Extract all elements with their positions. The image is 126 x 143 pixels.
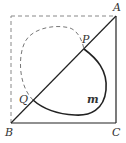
- label-p: P: [81, 33, 90, 46]
- dashed-curve: [20, 27, 84, 100]
- geometry-diagram: A B C P Q m: [0, 0, 126, 143]
- label-m: m: [87, 93, 99, 106]
- label-b: B: [4, 126, 13, 139]
- label-c: C: [112, 126, 121, 139]
- label-q: Q: [19, 93, 28, 106]
- label-a: A: [112, 1, 121, 14]
